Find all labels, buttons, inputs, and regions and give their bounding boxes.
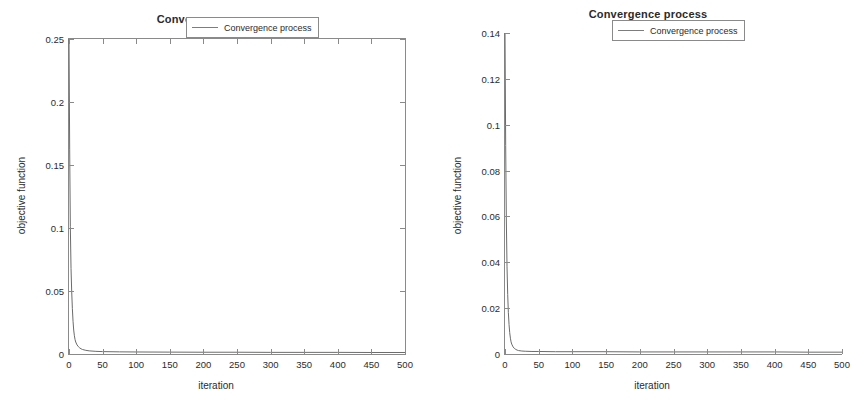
x-tick-mark [606, 349, 607, 354]
plot-area-right: 00.020.040.060.080.10.120.14050100150200… [504, 33, 842, 355]
x-tick-mark [842, 349, 843, 354]
x-tick-label: 400 [767, 359, 783, 370]
x-tick-mark [170, 349, 171, 354]
legend-label-right: Convergence process [650, 26, 738, 36]
x-tick-mark-top [371, 39, 372, 44]
data-line-right [505, 33, 842, 354]
y-tick-label: 0.12 [482, 73, 501, 84]
x-tick-label: 250 [666, 359, 682, 370]
y-tick-label: 0.02 [482, 303, 501, 314]
x-tick-label: 250 [229, 359, 245, 370]
y-tick-label: 0.14 [482, 28, 501, 39]
x-tick-mark-top [170, 39, 171, 44]
chart-panel-right: Convergence process 00.020.040.060.080.1… [432, 0, 864, 418]
legend-left: Convergence process [186, 17, 319, 38]
y-tick-label: 0.04 [482, 257, 501, 268]
chart-title-right: Convergence process [432, 8, 864, 20]
y-tick-mark [505, 33, 510, 34]
series-line [69, 39, 405, 352]
x-tick-label: 0 [502, 359, 507, 370]
x-tick-mark [539, 349, 540, 354]
x-tick-mark-top [237, 39, 238, 44]
y-tick-mark-right [400, 354, 405, 355]
x-tick-label: 0 [66, 359, 71, 370]
x-tick-label: 500 [397, 359, 413, 370]
y-tick-mark [69, 291, 74, 292]
y-tick-label: 0 [59, 349, 64, 360]
x-tick-mark [572, 349, 573, 354]
plot-area-left: 00.050.10.150.20.25050100150200250300350… [68, 38, 406, 355]
y-tick-mark [505, 79, 510, 80]
y-axis-label-left: objective function [16, 146, 27, 246]
x-tick-label: 350 [733, 359, 749, 370]
y-tick-label: 0.15 [46, 160, 65, 171]
x-tick-mark-top [271, 39, 272, 44]
x-tick-mark [505, 349, 506, 354]
x-tick-mark [405, 349, 406, 354]
x-tick-label: 50 [533, 359, 544, 370]
x-tick-label: 450 [363, 359, 379, 370]
x-tick-mark [237, 349, 238, 354]
y-tick-mark-right [400, 102, 405, 103]
x-tick-label: 150 [162, 359, 178, 370]
x-tick-mark [707, 349, 708, 354]
x-tick-mark-top [405, 39, 406, 44]
x-tick-mark [674, 349, 675, 354]
y-tick-label: 0.1 [487, 119, 500, 130]
y-tick-mark-right [400, 228, 405, 229]
x-tick-mark-top [103, 39, 104, 44]
x-tick-mark [371, 349, 372, 354]
y-tick-mark [69, 228, 74, 229]
legend-right: Convergence process [612, 20, 745, 41]
y-tick-label: 0.25 [46, 34, 65, 45]
x-tick-mark [338, 349, 339, 354]
legend-line-sample-icon [192, 27, 218, 28]
x-tick-mark-top [203, 39, 204, 44]
y-tick-mark [505, 125, 510, 126]
x-tick-label: 500 [834, 359, 850, 370]
y-tick-label: 0.06 [482, 211, 501, 222]
y-tick-label: 0.08 [482, 165, 501, 176]
x-tick-mark [136, 349, 137, 354]
x-tick-mark [203, 349, 204, 354]
y-tick-mark-right [400, 291, 405, 292]
y-tick-label: 0 [495, 349, 500, 360]
x-tick-mark [271, 349, 272, 354]
x-tick-mark [304, 349, 305, 354]
x-tick-mark [69, 349, 70, 354]
x-tick-mark-top [69, 39, 70, 44]
x-tick-mark [808, 349, 809, 354]
y-tick-mark-right [400, 165, 405, 166]
y-tick-label: 0.1 [51, 223, 64, 234]
y-tick-mark [505, 308, 510, 309]
x-tick-mark [640, 349, 641, 354]
x-tick-label: 350 [296, 359, 312, 370]
y-tick-label: 0.05 [46, 286, 65, 297]
y-tick-mark [505, 354, 510, 355]
x-tick-label: 200 [195, 359, 211, 370]
x-tick-label: 300 [263, 359, 279, 370]
x-axis-label-left: iteration [0, 380, 432, 391]
x-tick-mark [741, 349, 742, 354]
x-tick-label: 50 [97, 359, 108, 370]
legend-label-left: Convergence process [224, 23, 312, 33]
y-tick-label: 0.2 [51, 97, 64, 108]
y-tick-mark [505, 171, 510, 172]
x-axis-label-right: iteration [436, 380, 864, 391]
legend-line-sample-icon [618, 30, 644, 31]
y-tick-mark [69, 354, 74, 355]
x-tick-mark-top [338, 39, 339, 44]
x-tick-mark-top [136, 39, 137, 44]
x-tick-label: 100 [128, 359, 144, 370]
y-tick-mark [69, 102, 74, 103]
x-tick-mark [775, 349, 776, 354]
x-tick-mark [103, 349, 104, 354]
x-tick-label: 400 [330, 359, 346, 370]
y-tick-mark [505, 216, 510, 217]
x-tick-label: 100 [564, 359, 580, 370]
x-tick-label: 150 [598, 359, 614, 370]
x-tick-label: 300 [699, 359, 715, 370]
y-axis-label-right: objective function [452, 146, 463, 246]
y-tick-mark [505, 262, 510, 263]
x-tick-label: 200 [632, 359, 648, 370]
